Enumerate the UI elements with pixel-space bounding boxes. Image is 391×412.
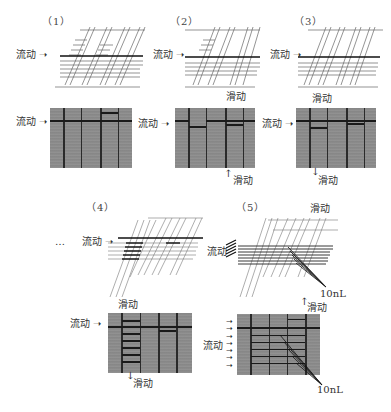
panel-2-chip-schematic <box>185 25 260 93</box>
panel-1-chip-schematic <box>55 25 145 95</box>
panel-3-gel-flow-label: 流动 ➝ <box>262 118 293 130</box>
panel-5-gel-flow-label: 流动 <box>203 340 223 352</box>
panel-5-slide-label: 滑动 <box>310 203 330 215</box>
panel-1-gel-image <box>50 108 132 168</box>
panel-2-gel-flow-label: 流动 ➝ <box>138 118 169 130</box>
panel-1-flow-label: 流动 ➝ <box>16 49 47 61</box>
panel-4-gel-image <box>108 313 192 373</box>
panel-4-gel-slide-label: 滑动 <box>133 378 153 390</box>
panel-3-slide-label: 滑动 <box>312 93 332 105</box>
panel-3-chip-schematic <box>298 25 383 93</box>
panel-1-gel-flow-label: 流动 ➝ <box>16 116 47 128</box>
panel-4-ellipsis: … <box>55 236 65 248</box>
panel-2-gel-slide-label: 滑动 <box>233 175 253 187</box>
panel-2-flow-label: 流动 ➝ <box>153 49 184 61</box>
panel-4-gel-flow-label: 流动 ➝ <box>70 318 101 330</box>
panel-2-slide-label: 滑动 <box>226 91 246 103</box>
panel-4-slide-label: 滑动 <box>118 299 138 311</box>
panel-5-gel-flow-arrows-icon: ➝➝➝➝➝➝➝ <box>226 318 233 369</box>
panel-5-volume-label: 10nL <box>320 288 346 300</box>
panel-5-flow-label: 流动 <box>207 246 227 258</box>
panel-5-gel-volume-label: 10nL <box>317 384 343 396</box>
panel-3-flow-label: 流动 ➝ <box>270 49 301 61</box>
panel-3-gel-image <box>296 108 376 168</box>
panel-2-slide-arrow-icon: ↑ <box>224 168 232 180</box>
panel-5-gel-volume-pointer-lines <box>280 330 325 390</box>
panel-5-gel-slide-label: 滑动 <box>307 302 327 314</box>
panel-3-gel-slide-label: 滑动 <box>318 175 338 187</box>
panel-4-chip-schematic <box>108 215 203 300</box>
panel-2-gel-image <box>175 108 255 168</box>
panel-5-label: （5） <box>236 202 265 214</box>
slipchip-diagram: （1） 流动 ➝ 流动 ➝ （2） 流动 ➝ 滑动 流动 ➝ <box>0 0 391 412</box>
panel-4-label: （4） <box>86 202 115 214</box>
